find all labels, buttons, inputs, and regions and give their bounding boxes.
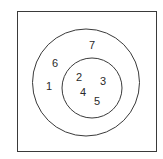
universal-set-rectangle xyxy=(18,12,157,152)
element-label-1: 1 xyxy=(46,81,52,92)
venn-diagram: 7 6 1 2 3 4 5 xyxy=(0,0,163,159)
element-label-2: 2 xyxy=(76,72,82,83)
inner-circle xyxy=(62,58,122,118)
element-label-4: 4 xyxy=(80,87,86,98)
element-label-5: 5 xyxy=(94,96,100,107)
element-label-3: 3 xyxy=(100,76,106,87)
element-label-7: 7 xyxy=(89,40,95,51)
element-label-6: 6 xyxy=(52,58,58,69)
